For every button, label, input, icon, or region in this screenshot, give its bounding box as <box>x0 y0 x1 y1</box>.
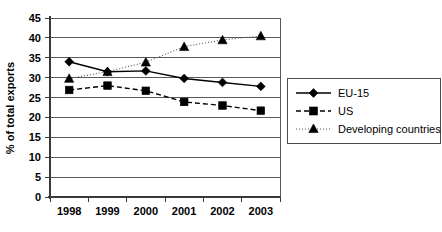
legend: EU-15 US Developing countries <box>287 78 441 143</box>
y-tick-label-30: 30 <box>29 72 41 84</box>
x-tick-label-2000: 2000 <box>134 205 158 217</box>
y-tick-label-25: 25 <box>29 92 41 104</box>
y-axis-title: % of total exports <box>4 62 16 154</box>
data-point-marker <box>219 102 227 110</box>
x-tick-label-1999: 1999 <box>95 205 119 217</box>
y-tick-marks <box>45 18 50 197</box>
y-tick-label-5: 5 <box>35 171 41 183</box>
data-point-marker <box>104 82 112 90</box>
y-tick-label-45: 45 <box>29 12 41 24</box>
y-tick-label-20: 20 <box>29 111 41 123</box>
x-tick-label-2003: 2003 <box>249 205 273 217</box>
y-tick-label-15: 15 <box>29 131 41 143</box>
chart-figure: 45 40 35 30 25 20 15 10 5 0 1998 1999 20… <box>0 0 442 232</box>
line-chart-svg: 45 40 35 30 25 20 15 10 5 0 1998 1999 20… <box>0 0 442 232</box>
data-point-marker <box>142 87 150 95</box>
x-tick-label-2001: 2001 <box>172 205 196 217</box>
legend-marker-square-icon <box>310 107 318 115</box>
x-tick-label-1998: 1998 <box>57 205 81 217</box>
data-point-marker <box>65 86 73 94</box>
legend-label-us: US <box>338 105 353 117</box>
x-tick-marks <box>50 197 280 202</box>
legend-label-developing-countries: Developing countries <box>338 123 441 135</box>
y-tick-label-40: 40 <box>29 32 41 44</box>
plot-background <box>50 18 280 197</box>
x-tick-label-2002: 2002 <box>210 205 234 217</box>
y-tick-label-0: 0 <box>35 191 41 203</box>
data-point-marker <box>180 98 188 106</box>
legend-label-eu-15: EU-15 <box>338 87 369 99</box>
y-tick-label-35: 35 <box>29 52 41 64</box>
y-tick-label-10: 10 <box>29 151 41 163</box>
data-point-marker <box>257 107 265 115</box>
